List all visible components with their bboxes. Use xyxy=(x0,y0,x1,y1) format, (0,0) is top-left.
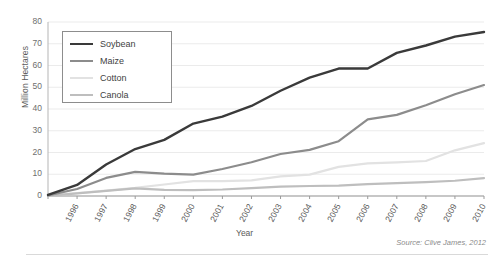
legend-swatch-cotton xyxy=(70,77,93,79)
legend-label-canola: Canola xyxy=(100,91,129,100)
y-tick-label: 70 xyxy=(20,38,42,48)
series-line-canola xyxy=(48,178,484,196)
legend-item-maize[interactable]: Maize xyxy=(70,53,124,69)
source-note: Source: Clive James, 2012 xyxy=(396,238,486,247)
y-tick-label: 20 xyxy=(20,147,42,157)
legend-label-soybean: Soybean xyxy=(100,40,136,49)
legend-swatch-canola xyxy=(70,94,93,96)
legend-swatch-maize xyxy=(70,60,93,62)
y-tick-label: 0 xyxy=(20,190,42,200)
bottom-divider xyxy=(26,254,488,255)
legend-label-maize: Maize xyxy=(100,57,124,66)
legend-item-cotton[interactable]: Cotton xyxy=(70,70,127,86)
legend-item-canola[interactable]: Canola xyxy=(70,87,129,103)
legend-label-cotton: Cotton xyxy=(100,74,127,83)
y-tick-label: 30 xyxy=(20,125,42,135)
y-tick-label: 40 xyxy=(20,103,42,113)
chart-figure: Million Hectares Year 01020304050607080 … xyxy=(0,0,498,262)
y-tick-label: 50 xyxy=(20,81,42,91)
x-axis-title: Year xyxy=(236,228,253,238)
y-tick-label: 10 xyxy=(20,168,42,178)
chart-legend: Soybean Maize Cotton Canola xyxy=(62,31,172,103)
y-tick-label: 80 xyxy=(20,16,42,26)
legend-swatch-soybean xyxy=(70,43,93,45)
legend-item-soybean[interactable]: Soybean xyxy=(70,36,136,52)
y-tick-label: 60 xyxy=(20,60,42,70)
